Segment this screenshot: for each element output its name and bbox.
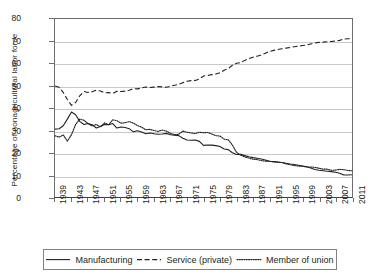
x-axis-tick-label: 1987 bbox=[257, 185, 267, 204]
x-axis-tick-mark bbox=[87, 198, 88, 202]
x-axis-tick-mark bbox=[204, 198, 205, 202]
y-axis-tick-label: 70 bbox=[0, 36, 21, 46]
y-axis-tick-label: 60 bbox=[0, 58, 21, 68]
plot-area bbox=[54, 18, 353, 198]
x-axis-tick-mark bbox=[104, 198, 105, 202]
x-axis-tick-label: 1971 bbox=[191, 185, 201, 204]
y-axis-tick-label: 10 bbox=[0, 171, 21, 181]
x-axis-tick-mark bbox=[187, 198, 188, 202]
x-axis-tick-label: 1955 bbox=[124, 185, 134, 204]
x-axis-tick-label: 2007 bbox=[340, 185, 350, 204]
legend-item: Manufacturing bbox=[46, 255, 132, 265]
x-axis-tick-mark bbox=[137, 198, 138, 202]
x-axis-tick-label: 1963 bbox=[158, 185, 168, 204]
y-axis-tick-label: 20 bbox=[0, 148, 21, 158]
chart-legend: ManufacturingService (private)Member of … bbox=[43, 249, 337, 270]
x-axis-tick-label: 1975 bbox=[208, 185, 218, 204]
x-axis-tick-label: 1967 bbox=[174, 185, 184, 204]
x-axis-tick-label: 1939 bbox=[58, 185, 68, 204]
line-series-svg bbox=[55, 19, 352, 197]
x-axis-tick-mark bbox=[270, 198, 271, 202]
legend-label: Service (private) bbox=[166, 255, 232, 265]
x-axis-tick-mark bbox=[154, 198, 155, 202]
x-axis-tick-mark bbox=[253, 198, 254, 202]
legend-item: Service (private) bbox=[137, 255, 232, 265]
x-axis-tick-label: 1983 bbox=[241, 185, 251, 204]
series-line-manufacturing bbox=[55, 112, 352, 175]
x-axis-tick-mark bbox=[336, 198, 337, 202]
x-axis-tick-label: 1979 bbox=[224, 185, 234, 204]
y-axis-tick-label: 50 bbox=[0, 81, 21, 91]
legend-label: Manufacturing bbox=[75, 255, 132, 265]
x-axis-tick-mark bbox=[170, 198, 171, 202]
x-axis-tick-label: 1999 bbox=[307, 185, 317, 204]
y-axis-tick-label: 80 bbox=[0, 13, 21, 23]
y-axis-tick-label: 40 bbox=[0, 103, 21, 113]
x-axis-tick-mark bbox=[120, 198, 121, 202]
x-axis-tick-mark bbox=[54, 198, 55, 202]
x-axis-tick-label: 1947 bbox=[91, 185, 101, 204]
legend-label: Member of union bbox=[266, 255, 334, 265]
x-axis-tick-mark bbox=[71, 198, 72, 202]
x-axis-tick-label: 1943 bbox=[75, 185, 85, 204]
x-axis-tick-label: 1951 bbox=[108, 185, 118, 204]
x-axis-tick-mark bbox=[237, 198, 238, 202]
x-axis-tick-mark bbox=[303, 198, 304, 202]
x-axis-tick-label: 1995 bbox=[291, 185, 301, 204]
x-axis-tick-label: 1959 bbox=[141, 185, 151, 204]
chart-figure: Percentage of nonagricultural labor forc… bbox=[0, 0, 380, 280]
x-axis-tick-label: 2003 bbox=[324, 185, 334, 204]
x-axis-tick-mark bbox=[353, 198, 354, 202]
legend-key-dashed bbox=[137, 255, 161, 264]
x-axis-tick-label: 2011 bbox=[357, 186, 367, 204]
legend-key-solid bbox=[46, 255, 70, 264]
series-layer bbox=[55, 19, 352, 197]
legend-item: Member of union bbox=[237, 255, 334, 265]
x-axis-tick-mark bbox=[220, 198, 221, 202]
y-axis-tick-label: 0 bbox=[0, 193, 21, 203]
legend-key-dotted bbox=[237, 255, 261, 264]
y-axis-tick-label: 30 bbox=[0, 126, 21, 136]
x-axis-tick-mark bbox=[320, 198, 321, 202]
series-line-service-private bbox=[55, 39, 352, 106]
x-axis-tick-mark bbox=[287, 198, 288, 202]
x-axis-tick-label: 1991 bbox=[274, 185, 284, 204]
